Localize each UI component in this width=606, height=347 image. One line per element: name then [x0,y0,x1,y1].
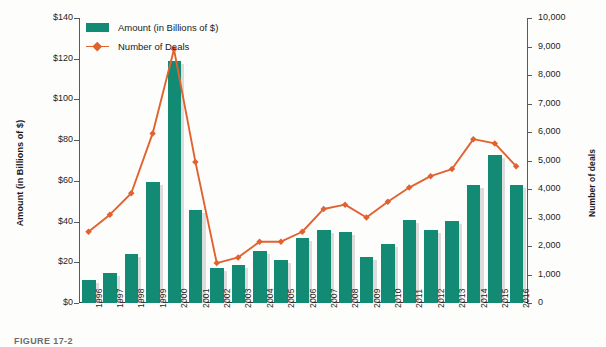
y-axis-left-tick-label: $120 [13,54,73,63]
x-axis-tick-label: 2014 [479,288,489,308]
x-axis-tick-label: 2015 [500,288,510,308]
x-axis-tick-label: 2004 [265,288,275,308]
data-point-marker [192,159,199,166]
x-axis-tick-label: 2013 [457,288,467,308]
y-axis-right-tick-label: 9,000 [538,42,598,51]
y-axis-left-tick-label: $100 [13,94,73,103]
deals-markers [85,46,519,266]
data-point-marker [149,130,156,137]
y-axis-right-tick-label: 1,000 [538,270,598,279]
figure-caption: FIGURE 17-2 [14,336,73,346]
legend-line-diamond-icon [86,42,109,52]
y-axis-right-tick-label: 5,000 [538,156,598,165]
x-axis-tick-label: 2007 [329,288,339,308]
x-axis-tick-label: 2010 [393,288,403,308]
legend-item-amount: Amount (in Billions of $) [86,20,218,35]
y-axis-left-tick-label: $140 [13,13,73,22]
x-axis-tick-label: 2001 [201,288,211,308]
y-axis-left-tick [74,303,79,304]
y-axis-left-tick-label: $40 [13,217,73,226]
x-axis-tick-label: 1998 [136,288,146,308]
y-axis-right-tick-label: 6,000 [538,127,598,136]
x-axis-tick-label: 2003 [243,288,253,308]
legend-swatch-icon [86,23,109,32]
y-axis-right-title: Number of deals [587,123,597,243]
plot-area: $0$20$40$60$80$100$120$140 01,0002,0003,… [79,18,528,303]
x-axis-tick-label: 1999 [158,288,168,308]
legend-label-amount: Amount (in Billions of $) [118,22,218,33]
x-axis-tick-label: 2012 [436,288,446,308]
x-axis-tick-label: 1996 [94,288,104,308]
y-axis-right-tick-label: 7,000 [538,99,598,108]
x-axis-tick-label: 2011 [414,289,424,308]
x-axis-tick-label: 2005 [286,288,296,308]
data-point-marker [214,260,221,267]
x-axis-tick-label: 2008 [350,288,360,308]
legend-item-deals: Number of Deals [86,39,218,54]
x-axis-tick-label: 2009 [372,288,382,308]
y-axis-right-tick-label: 4,000 [538,184,598,193]
y-axis-left-tick-label: $20 [13,257,73,266]
legend-label-deals: Number of Deals [118,41,189,52]
data-point-marker [278,238,285,245]
chart-legend: Amount (in Billions of $) Number of Deal… [86,20,218,58]
x-axis-tick-label: 2006 [308,288,318,308]
x-axis-tick-label: 2002 [222,288,232,308]
y-axis-right-tick-label: 0 [538,298,598,307]
y-axis-right-tick-label: 2,000 [538,241,598,250]
y-axis-left-tick-label: $0 [13,298,73,307]
y-axis-right-tick-label: 10,000 [538,13,598,22]
x-axis-tick-label: 2000 [179,288,189,308]
y-axis-left-title: Amount (in Billions of $) [15,113,25,233]
line-series [79,18,528,303]
x-axis-tick-label: 1997 [115,288,125,308]
y-axis-left-tick-label: $60 [13,176,73,185]
chart-figure: Amount (in Billions of $) Number of deal… [0,0,606,347]
x-axis-tick-label: 2016 [521,288,531,308]
y-axis-right-tick-label: 8,000 [538,70,598,79]
y-axis-left-tick-label: $80 [13,135,73,144]
y-axis-right-tick-label: 3,000 [538,213,598,222]
